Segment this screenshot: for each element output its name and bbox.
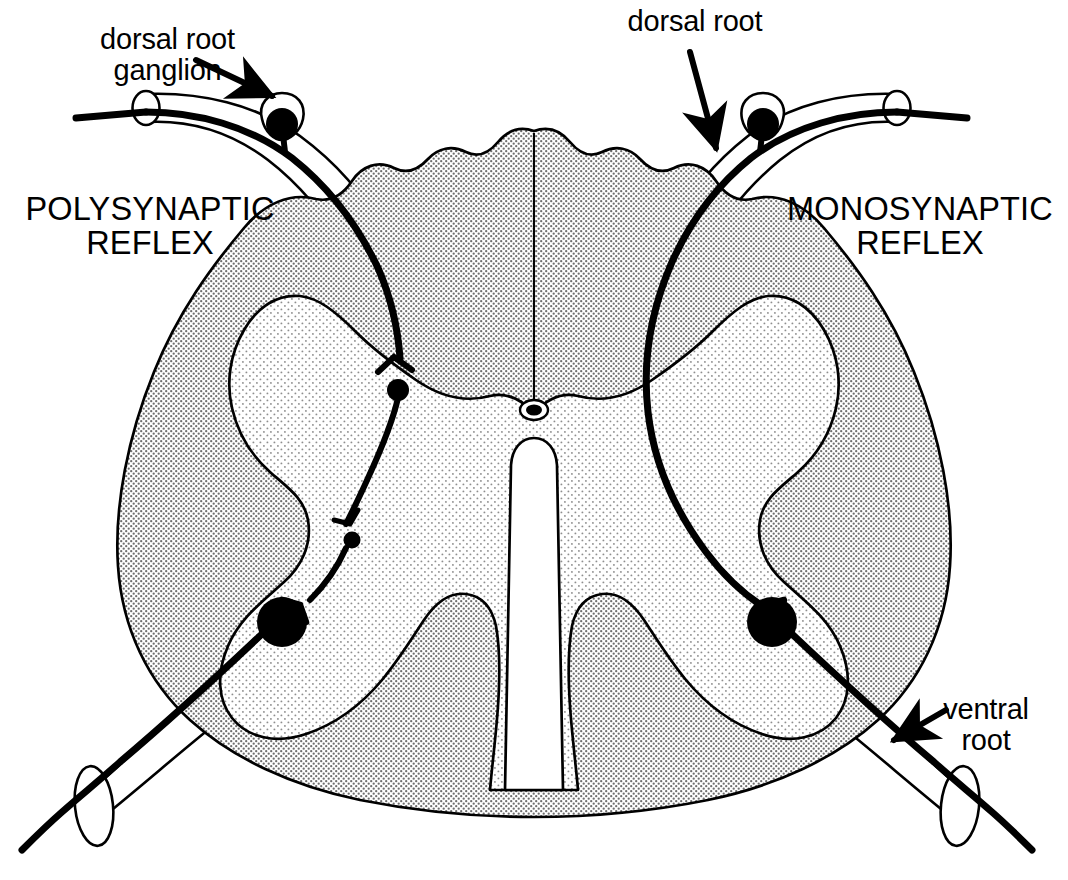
right-dorsal-root-cut-end [884,91,911,125]
left-interneuron-lower [344,532,361,549]
central-canal [520,400,548,420]
spinal-cord-illustration [0,0,1068,880]
polysynaptic-reflex-label: POLYSYNAPTIC REFLEX [10,192,290,261]
ventral-root-label: ventral root [918,694,1054,755]
left-motor-neuron-cell-body [257,597,307,647]
dorsal-root-ganglion-label: dorsal root ganglion [60,24,275,85]
left-interneuron-upper [387,379,409,401]
left-dorsal-root-ganglion-cell [266,108,298,140]
monosynaptic-reflex-label: MONOSYNAPTIC REFLEX [778,192,1062,261]
left-dorsal-root-cut-end [133,91,160,125]
ventral-median-fissure [505,438,563,790]
right-motor-neuron-cell-body [747,597,797,647]
right-dorsal-root-ganglion-cell [747,108,779,140]
spinal-cord-reflex-diagram: dorsal root ganglion dorsal root ventral… [0,0,1068,880]
dorsal-root-leader [690,52,716,148]
dorsal-root-label: dorsal root [580,6,810,37]
